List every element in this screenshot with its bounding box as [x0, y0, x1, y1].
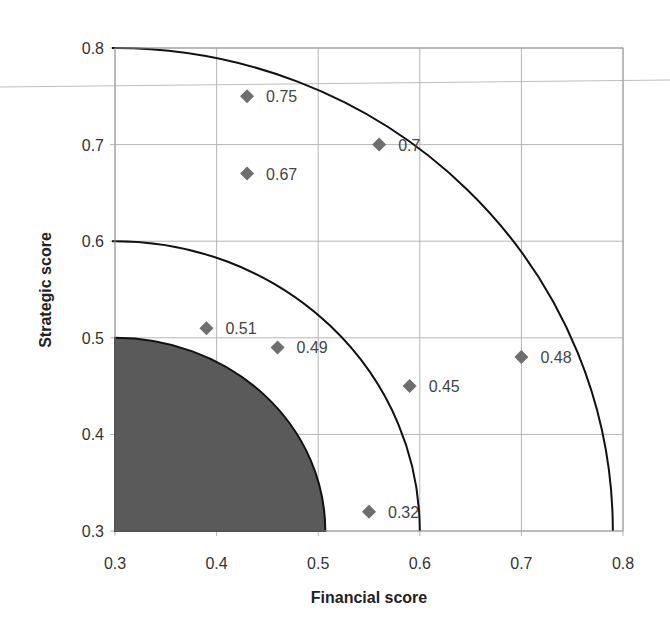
y-tick-label: 0.3: [82, 523, 104, 540]
point-label: 0.45: [429, 378, 460, 395]
x-tick-label: 0.8: [612, 555, 634, 572]
x-axis-title: Financial score: [311, 589, 428, 606]
y-tick-label: 0.7: [82, 137, 104, 154]
point-label: 0.67: [266, 166, 297, 183]
diamond-marker-icon: [240, 89, 254, 103]
point-label: 0.75: [266, 88, 297, 105]
data-point: 0.67: [240, 166, 297, 183]
diamond-marker-icon: [240, 167, 254, 181]
diamond-marker-icon: [372, 138, 386, 152]
data-point: 0.45: [403, 378, 460, 395]
point-label: 0.51: [225, 320, 256, 337]
diamond-marker-icon: [271, 340, 285, 354]
x-tick-label: 0.3: [104, 555, 126, 572]
stray-line: [0, 80, 670, 87]
point-label: 0.7: [398, 137, 420, 154]
data-point: 0.32: [362, 504, 419, 521]
y-tick-label: 0.5: [82, 330, 104, 347]
x-tick-label: 0.5: [307, 555, 329, 572]
y-tick-label: 0.8: [82, 40, 104, 57]
point-label: 0.49: [297, 339, 328, 356]
data-point: 0.51: [199, 320, 256, 337]
inner-region-fill: [115, 338, 325, 531]
y-tick-label: 0.4: [82, 426, 104, 443]
x-tick-label: 0.4: [205, 555, 227, 572]
threshold-arcs: [112, 48, 613, 531]
diamond-marker-icon: [403, 379, 417, 393]
x-axis-ticks: 0.30.40.50.60.70.8: [104, 555, 634, 572]
diamond-marker-icon: [362, 505, 376, 519]
y-tick-label: 0.6: [82, 233, 104, 250]
y-axis-ticks: 0.30.40.50.60.70.8: [82, 40, 104, 540]
point-label: 0.48: [540, 349, 571, 366]
x-tick-label: 0.7: [510, 555, 532, 572]
data-point: 0.49: [271, 339, 328, 356]
diamond-marker-icon: [514, 350, 528, 364]
scatter-chart: 0.750.70.670.510.490.450.480.32 0.30.40.…: [0, 0, 670, 636]
data-point: 0.48: [514, 349, 571, 366]
point-label: 0.32: [388, 504, 419, 521]
x-tick-label: 0.6: [409, 555, 431, 572]
data-point: 0.75: [240, 88, 297, 105]
diamond-marker-icon: [199, 321, 213, 335]
y-axis-title: Strategic score: [37, 232, 54, 348]
